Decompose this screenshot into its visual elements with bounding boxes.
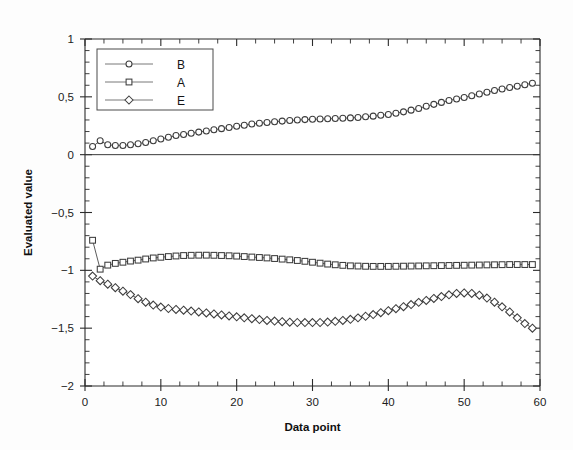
data-point-circle — [203, 128, 209, 134]
data-point-square — [150, 255, 156, 261]
data-point-square — [408, 263, 414, 269]
data-point-square — [454, 262, 460, 268]
data-point-square — [325, 261, 331, 267]
data-point-square — [264, 255, 270, 261]
data-point-circle — [234, 123, 240, 129]
x-tick-label: 60 — [534, 396, 547, 408]
data-point-square — [317, 260, 323, 266]
data-point-circle — [241, 122, 247, 128]
evaluated-value-line-chart: 010203040506010,50−0,5−1−1,5−2 BAE Data … — [0, 0, 573, 450]
x-tick-label: 40 — [382, 396, 395, 408]
data-point-square — [423, 263, 429, 269]
data-point-circle — [522, 82, 528, 88]
data-point-square — [279, 256, 285, 262]
data-point-square — [135, 257, 141, 263]
data-point-circle — [143, 140, 149, 146]
y-axis-title: Evaluated value — [22, 169, 34, 256]
data-point-circle — [165, 134, 171, 140]
data-point-circle — [340, 115, 346, 121]
data-point-circle — [393, 110, 399, 116]
data-point-square — [173, 253, 179, 259]
data-point-square — [348, 263, 354, 269]
data-point-square — [203, 252, 209, 258]
data-point-circle — [454, 96, 460, 102]
data-point-circle — [347, 115, 353, 121]
legend-label-E: E — [177, 94, 185, 108]
data-point-square — [476, 262, 482, 268]
data-point-square — [461, 262, 467, 268]
x-tick-label: 50 — [458, 396, 471, 408]
data-point-square — [287, 257, 293, 263]
x-tick-label: 30 — [306, 396, 319, 408]
legend-label-B: B — [177, 58, 185, 72]
y-tick-label: −0,5 — [51, 207, 74, 219]
x-tick-label: 20 — [230, 396, 243, 408]
data-point-circle — [355, 114, 361, 120]
data-point-circle — [302, 117, 308, 123]
data-point-circle — [128, 142, 134, 148]
data-point-circle — [529, 80, 535, 86]
data-point-circle — [105, 142, 111, 148]
data-point-square — [363, 263, 369, 269]
data-point-square — [522, 262, 528, 268]
data-point-circle — [173, 133, 179, 139]
data-point-square — [211, 252, 217, 258]
data-point-square — [530, 262, 536, 268]
data-point-square — [370, 264, 376, 270]
data-point-circle — [264, 120, 270, 126]
data-point-square — [484, 262, 490, 268]
data-point-square — [439, 263, 445, 269]
data-point-circle — [272, 119, 278, 125]
data-point-square — [181, 253, 187, 259]
y-tick-label: −1 — [61, 264, 74, 276]
data-point-circle — [226, 124, 232, 130]
data-point-square — [507, 262, 513, 268]
data-point-square — [105, 262, 111, 268]
data-point-square — [257, 255, 263, 261]
legend-label-A: A — [177, 76, 185, 90]
data-point-square — [128, 258, 134, 264]
data-point-circle — [158, 136, 164, 142]
data-point-circle — [317, 116, 323, 122]
data-point-circle — [325, 116, 331, 122]
data-point-square — [143, 256, 149, 262]
data-point-square — [431, 263, 437, 269]
data-point-square — [492, 262, 498, 268]
data-point-circle — [370, 113, 376, 119]
data-point-square — [310, 259, 316, 265]
data-point-circle — [332, 116, 338, 122]
data-point-square — [126, 79, 132, 85]
data-point-circle — [126, 61, 132, 67]
data-point-square — [401, 263, 407, 269]
data-point-circle — [461, 94, 467, 100]
data-point-circle — [408, 107, 414, 113]
data-point-square — [219, 253, 225, 259]
x-tick-label: 10 — [154, 396, 167, 408]
x-axis-title: Data point — [284, 421, 340, 433]
y-tick-label: −2 — [61, 380, 74, 392]
data-point-circle — [120, 142, 126, 148]
y-tick-label: 0 — [68, 149, 74, 161]
data-point-circle — [196, 129, 202, 135]
data-point-square — [90, 237, 96, 243]
data-point-square — [120, 259, 126, 265]
data-point-circle — [484, 89, 490, 95]
x-tick-label: 0 — [82, 396, 88, 408]
data-point-square — [196, 252, 202, 258]
data-point-circle — [287, 118, 293, 124]
chart-legend[interactable]: BAE — [97, 49, 213, 110]
data-point-square — [514, 262, 520, 268]
data-point-circle — [256, 120, 262, 126]
data-point-circle — [219, 126, 225, 132]
data-point-square — [469, 262, 475, 268]
data-point-square — [355, 263, 361, 269]
data-point-square — [378, 264, 384, 270]
data-point-circle — [416, 105, 422, 111]
data-point-circle — [97, 138, 103, 144]
data-point-square — [226, 253, 232, 259]
data-point-circle — [438, 99, 444, 105]
data-point-square — [97, 266, 103, 272]
data-point-circle — [90, 144, 96, 150]
y-tick-label: 0,5 — [58, 91, 74, 103]
data-point-square — [158, 254, 164, 260]
